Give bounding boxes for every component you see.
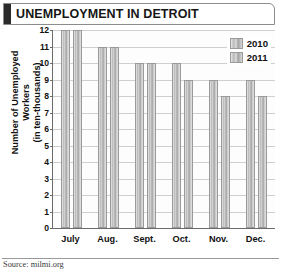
source-divider: [2, 258, 279, 259]
x-axis-labels: JulyAug.Sept.Oct.Nov.Dec.: [52, 234, 274, 250]
plot-area: 1211109876543210 2010 2011: [52, 30, 275, 229]
legend-label-2011: 2011: [247, 52, 268, 63]
y-axis-tick-label: 6: [44, 124, 49, 134]
legend-item-2011: 2011: [230, 52, 268, 63]
y-axis-tick-mark: [50, 228, 53, 229]
bar-2010-july: [61, 30, 70, 228]
x-axis-tick-label: Sept.: [126, 234, 163, 250]
bar-group: [127, 30, 164, 228]
y-axis-tick-label: 3: [44, 174, 49, 184]
x-axis-tick-label: Nov.: [200, 234, 237, 250]
y-axis-label-line1: Number of Unemployed Workers: [10, 51, 31, 155]
y-axis-label: Number of Unemployed Workers (in ten-tho…: [10, 33, 43, 173]
bar-group: [164, 30, 201, 228]
y-axis-tick-label: 0: [44, 223, 49, 233]
legend-swatch-2011-icon: [230, 52, 243, 63]
y-axis-tick-label: 1: [44, 207, 49, 217]
bar-2011-aug: [110, 47, 119, 229]
x-axis-tick-label: Aug.: [89, 234, 126, 250]
y-axis-tick-label: 8: [44, 91, 49, 101]
source-note: Source: milmi.org: [3, 260, 64, 269]
bar-2010-nov: [209, 80, 218, 229]
y-axis-tick-label: 4: [44, 157, 49, 167]
y-axis-tick-label: 5: [44, 141, 49, 151]
bar-2010-dec: [246, 80, 255, 229]
title-accent-bar: [4, 4, 11, 24]
bar-2011-july: [73, 30, 82, 228]
legend-item-2010: 2010: [230, 38, 268, 49]
chart-container: Number of Unemployed Workers (in ten-tho…: [0, 26, 281, 256]
y-axis-tick-label: 2: [44, 190, 49, 200]
bar-2011-nov: [221, 96, 230, 228]
legend-swatch-2010-icon: [230, 38, 243, 49]
x-axis-tick-label: July: [52, 234, 89, 250]
bar-2011-sept: [147, 63, 156, 228]
y-axis-tick-label: 11: [40, 42, 49, 52]
y-axis-tick-label: 10: [39, 58, 49, 68]
y-axis-tick-label: 12: [39, 25, 49, 35]
bar-2010-aug: [98, 47, 107, 229]
y-axis-tick-label: 7: [44, 108, 49, 118]
bar-2010-oct: [172, 63, 181, 228]
chart-title-bar: UNEMPLOYMENT IN DETROIT: [3, 3, 275, 25]
legend-label-2010: 2010: [247, 38, 268, 49]
bar-2011-oct: [184, 80, 193, 229]
bar-group: [53, 30, 90, 228]
bar-2011-dec: [258, 96, 267, 228]
x-axis-tick-label: Oct.: [163, 234, 200, 250]
bar-group: [90, 30, 127, 228]
chart-legend: 2010 2011: [227, 36, 271, 65]
y-axis-tick-label: 9: [44, 75, 49, 85]
y-axis-label-line2: (in ten-thousands): [32, 62, 42, 142]
x-axis-tick-label: Dec.: [237, 234, 274, 250]
bar-2010-sept: [135, 63, 144, 228]
page-title: UNEMPLOYMENT IN DETROIT: [16, 4, 199, 24]
